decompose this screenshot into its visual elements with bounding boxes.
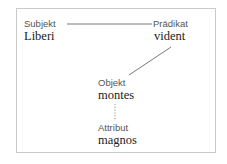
node-subjekt: Subjekt Liberi [24, 18, 56, 43]
latin-word: Liberi [24, 29, 56, 43]
role-label: Attribut [98, 122, 137, 133]
node-objekt: Objekt montes [98, 77, 134, 102]
role-label: Prädikat [153, 18, 188, 29]
role-label: Subjekt [24, 18, 56, 29]
node-praedikat: Prädikat vident [153, 18, 188, 43]
latin-word: montes [98, 88, 134, 102]
latin-word: magnos [98, 133, 137, 147]
node-attribut: Attribut magnos [98, 122, 137, 147]
latin-word: vident [154, 29, 188, 43]
role-label: Objekt [98, 77, 134, 88]
